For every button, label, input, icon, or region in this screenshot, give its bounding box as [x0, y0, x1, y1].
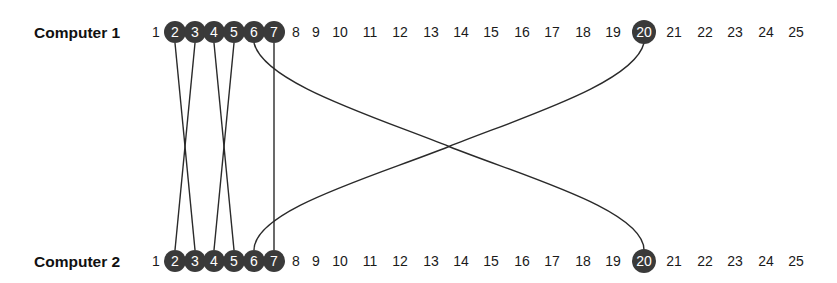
- port-number: 7: [270, 24, 278, 40]
- port-number: 10: [332, 253, 348, 269]
- port-number: 17: [544, 253, 560, 269]
- port-number: 14: [453, 253, 469, 269]
- port-number: 15: [483, 24, 499, 40]
- port-number: 9: [312, 24, 320, 40]
- computer-2-label: Computer 2: [34, 253, 120, 270]
- port-number: 15: [483, 253, 499, 269]
- port-number: 25: [788, 24, 804, 40]
- port-number: 13: [423, 24, 439, 40]
- port-number: 23: [727, 24, 743, 40]
- port-number: 20: [636, 253, 652, 269]
- computer-link-diagram: Computer 1 12345678910111213141516171819…: [0, 0, 837, 283]
- port-number: 18: [575, 253, 591, 269]
- port-number: 10: [332, 24, 348, 40]
- port-number: 3: [191, 253, 199, 269]
- port-number: 1: [152, 253, 160, 269]
- port-number: 12: [392, 253, 408, 269]
- port-number: 21: [666, 24, 682, 40]
- port-number: 24: [758, 24, 774, 40]
- port-number: 4: [210, 253, 218, 269]
- port-number: 9: [312, 253, 320, 269]
- port-number: 22: [697, 24, 713, 40]
- port-number: 1: [152, 24, 160, 40]
- port-number: 18: [575, 24, 591, 40]
- port-number: 5: [230, 253, 238, 269]
- connection-line-20-to-6: [254, 43, 644, 250]
- port-number: 14: [453, 24, 469, 40]
- port-number: 5: [230, 24, 238, 40]
- port-number: 6: [250, 253, 258, 269]
- computer-1-label: Computer 1: [34, 24, 121, 41]
- port-number: 7: [270, 253, 278, 269]
- computer-2-row: Computer 2 12345678910111213141516171819…: [34, 249, 804, 273]
- port-number: 16: [514, 24, 530, 40]
- port-number: 22: [697, 253, 713, 269]
- port-number: 16: [514, 253, 530, 269]
- port-number: 11: [363, 253, 378, 269]
- port-number: 8: [292, 24, 300, 40]
- connection-lines: [175, 43, 644, 250]
- port-number: 19: [605, 24, 621, 40]
- port-number: 23: [727, 253, 743, 269]
- port-number: 3: [191, 24, 199, 40]
- port-number: 12: [392, 24, 408, 40]
- port-number: 13: [423, 253, 439, 269]
- computer-1-row: Computer 1 12345678910111213141516171819…: [34, 20, 804, 44]
- port-number: 4: [210, 24, 218, 40]
- port-number: 2: [171, 253, 179, 269]
- port-number: 6: [250, 24, 258, 40]
- port-number: 21: [666, 253, 682, 269]
- port-number: 17: [544, 24, 560, 40]
- port-number: 8: [292, 253, 300, 269]
- port-number: 2: [171, 24, 179, 40]
- port-number: 24: [758, 253, 774, 269]
- port-number: 11: [363, 24, 378, 40]
- port-number: 25: [788, 253, 804, 269]
- port-number: 19: [605, 253, 621, 269]
- port-number: 20: [636, 24, 652, 40]
